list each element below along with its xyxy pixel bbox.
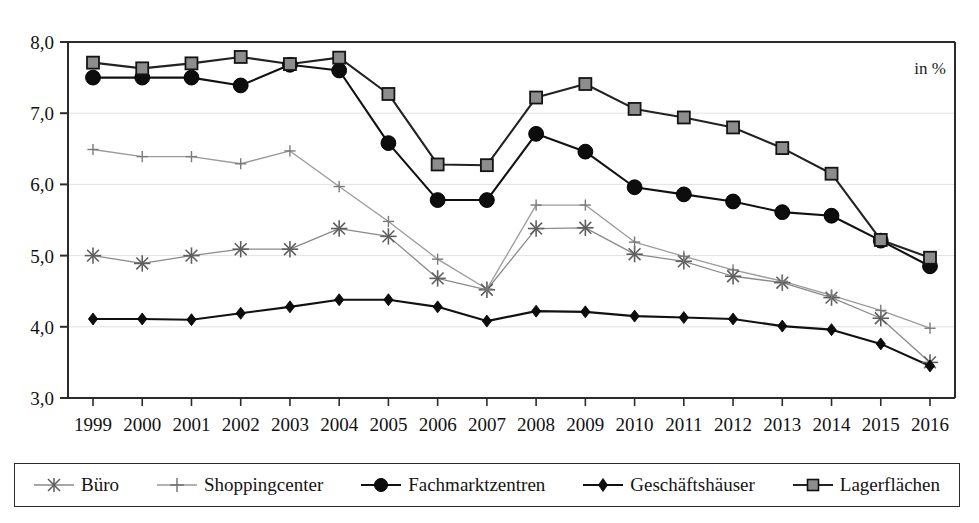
fachmarktzentren-marker-icon [361, 475, 401, 495]
data-point-marker [136, 62, 148, 74]
line-chart-svg: 3,04,05,06,07,08,0 199920002001200220032… [0, 0, 979, 455]
geschaeftshaeuser-marker-icon [583, 475, 623, 495]
data-point-marker [331, 220, 347, 236]
x-tick-label: 2004 [320, 414, 359, 435]
legend-label-shoppingcenter: Shoppingcenter [204, 474, 323, 496]
data-point-marker [776, 142, 788, 154]
data-point-marker [236, 307, 245, 319]
y-tick-label: 4,0 [30, 317, 54, 338]
y-tick-label: 3,0 [30, 388, 54, 409]
legend-label-fachmarktzentren: Fachmarktzentren [408, 474, 545, 496]
data-point-marker [924, 252, 936, 264]
x-tick-label: 2000 [123, 414, 161, 435]
legend-item-buero[interactable]: Büro [30, 474, 123, 496]
data-point-marker [87, 57, 99, 69]
data-point-marker [384, 294, 393, 306]
data-point-marker [187, 314, 196, 326]
x-tick-label: 2009 [566, 414, 604, 435]
legend-item-lagerflaechen[interactable]: Lagerflächen [789, 474, 944, 496]
data-point-marker [134, 255, 150, 271]
data-point-marker [334, 181, 345, 192]
data-point-marker [333, 52, 345, 64]
legend-item-geschaeftshaeuser[interactable]: Geschäftshäuser [579, 474, 759, 496]
data-point-marker [186, 151, 197, 162]
data-point-marker [531, 199, 542, 210]
x-tick-labels-group: 1999200020012002200320042005200620072008… [74, 414, 949, 435]
series-line [93, 300, 930, 366]
data-point-marker [284, 145, 295, 156]
data-point-marker [578, 144, 593, 159]
data-point-marker [235, 51, 247, 63]
data-point-marker [529, 126, 544, 141]
data-point-marker [676, 187, 691, 202]
data-point-marker [580, 199, 591, 210]
data-point-marker [235, 158, 246, 169]
series-lines-group [93, 57, 930, 366]
data-point-marker [183, 247, 199, 263]
y-tick-label: 5,0 [30, 246, 54, 267]
data-point-marker [727, 121, 739, 133]
data-point-marker [727, 264, 738, 275]
x-tick-label: 2014 [813, 414, 852, 435]
legend-item-shoppingcenter[interactable]: Shoppingcenter [153, 474, 327, 496]
series-line [93, 65, 930, 266]
x-tick-label: 2007 [468, 414, 506, 435]
data-point-marker [824, 208, 839, 223]
data-point-marker [380, 228, 396, 244]
data-point-marker [826, 168, 838, 180]
gridlines-group [68, 42, 955, 327]
data-point-marker [482, 315, 491, 327]
data-point-marker [332, 63, 347, 78]
lagerflaechen-marker-icon [793, 475, 833, 495]
data-point-marker [87, 144, 98, 155]
data-point-marker [627, 180, 642, 195]
legend-item-fachmarktzentren[interactable]: Fachmarktzentren [357, 474, 549, 496]
data-point-marker [528, 220, 544, 236]
data-point-marker [581, 306, 590, 318]
axes-group [60, 42, 955, 406]
data-point-marker [778, 320, 787, 332]
x-tick-label: 2015 [862, 414, 900, 435]
buero-marker-icon [34, 475, 74, 495]
data-point-marker [432, 158, 444, 170]
data-point-marker [429, 270, 445, 286]
data-point-marker [282, 241, 298, 257]
data-point-marker [335, 294, 344, 306]
data-point-marker [630, 310, 639, 322]
data-point-marker [137, 151, 148, 162]
data-point-marker [579, 78, 591, 90]
chart-plot-area: 3,04,05,06,07,08,0 199920002001200220032… [0, 0, 979, 455]
data-point-marker [284, 58, 296, 70]
data-point-marker [679, 312, 688, 324]
data-point-marker [626, 246, 642, 262]
y-tick-label: 7,0 [30, 103, 54, 124]
x-tick-label: 2005 [369, 414, 407, 435]
data-point-marker [775, 205, 790, 220]
data-point-marker [629, 103, 641, 115]
x-tick-label: 2008 [517, 414, 555, 435]
data-point-marker [629, 236, 640, 247]
data-point-marker [233, 241, 249, 257]
data-point-marker [86, 70, 101, 85]
legend-label-buero: Büro [81, 474, 119, 496]
data-point-marker [530, 92, 542, 104]
data-point-marker [138, 313, 147, 325]
x-tick-label: 2011 [665, 414, 702, 435]
data-point-marker [876, 338, 885, 350]
x-tick-label: 2003 [271, 414, 309, 435]
y-tick-labels-group: 3,04,05,06,07,08,0 [30, 32, 54, 409]
series-markers-group [85, 51, 938, 372]
series-line [93, 150, 930, 329]
legend-label-geschaeftshaeuser: Geschäftshäuser [630, 474, 755, 496]
legend-label-lagerflaechen: Lagerflächen [840, 474, 940, 496]
x-tick-label: 1999 [74, 414, 112, 435]
chart-legend: Büro Shoppingcenter Fachmarktzentren [14, 463, 960, 507]
data-point-marker [382, 88, 394, 100]
data-point-marker [875, 234, 887, 246]
series-line [93, 57, 930, 258]
data-point-marker [85, 247, 101, 263]
x-tick-label: 2012 [714, 414, 752, 435]
data-point-marker [433, 301, 442, 313]
data-point-marker [728, 313, 737, 325]
data-point-marker [233, 78, 248, 93]
